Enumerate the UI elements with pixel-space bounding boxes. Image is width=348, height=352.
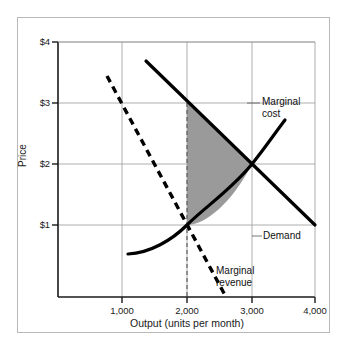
demand-label: Demand: [263, 230, 301, 242]
marginal-cost-label-line1: Marginal: [262, 96, 300, 108]
y-tick-label-4: $4: [28, 36, 50, 47]
y-tick-label-3: $3: [28, 97, 50, 108]
y-tick-label-2: $2: [28, 158, 50, 169]
x-tick-label-2000: 2,000: [161, 305, 213, 316]
x-tick-label-3000: 3,000: [226, 305, 278, 316]
y-tick-label-1: $1: [28, 219, 50, 230]
marginal-revenue-label: Marginal revenue: [216, 265, 254, 288]
x-axis-title: Output (units per month): [58, 317, 316, 329]
marginal-cost-label-line2: cost: [262, 108, 300, 120]
y-tick-marks: [52, 42, 58, 225]
x-tick-marks: [122, 297, 315, 303]
marginal-cost-label: Marginal cost: [262, 96, 300, 119]
y-axis-title: Price: [17, 126, 28, 186]
x-tick-label-1000: 1,000: [96, 305, 148, 316]
marginal-revenue-label-line2: revenue: [216, 277, 254, 289]
chart-canvas: [0, 0, 348, 352]
x-tick-label-4000: 4,000: [289, 305, 341, 316]
figure-container: $4 $3 $2 $1 1,000 2,000 3,000 4,000 Pric…: [0, 0, 348, 352]
demand-curve: [146, 61, 315, 225]
marginal-revenue-label-line1: Marginal: [216, 265, 254, 277]
